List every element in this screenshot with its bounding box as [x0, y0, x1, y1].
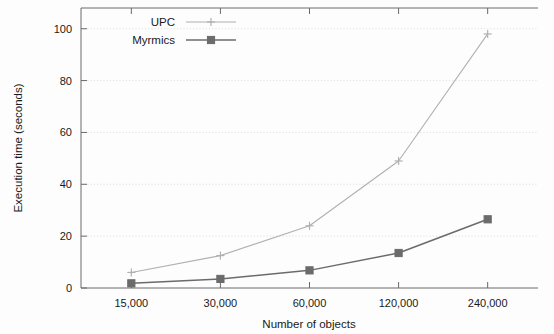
y-tick-label: 0 — [66, 282, 72, 294]
x-tick-label: 120,000 — [379, 297, 419, 309]
data-point-myrmics — [395, 249, 402, 256]
data-point-myrmics — [217, 275, 224, 282]
legend-label-myrmics: Myrmics — [132, 34, 175, 46]
x-tick-label: 60,000 — [293, 297, 327, 309]
y-tick-label: 100 — [54, 23, 72, 35]
data-point-myrmics — [128, 280, 135, 287]
chart-figure: 020406080100 15,00030,00060,000120,00024… — [0, 0, 554, 334]
y-tick-label: 60 — [60, 126, 72, 138]
x-tick-label: 240,000 — [468, 297, 508, 309]
chart-background — [0, 0, 554, 334]
data-point-myrmics — [484, 216, 491, 223]
data-point-myrmics — [306, 267, 313, 274]
x-axis-label: Number of objects — [262, 318, 356, 330]
y-axis-label: Execution time (seconds) — [12, 83, 24, 212]
y-tick-label: 40 — [60, 178, 72, 190]
x-tick-label: 30,000 — [204, 297, 238, 309]
x-tick-label: 15,000 — [115, 297, 149, 309]
legend-marker-myrmics — [207, 36, 214, 43]
y-tick-label: 20 — [60, 230, 72, 242]
execution-time-line-chart: 020406080100 15,00030,00060,000120,00024… — [0, 0, 554, 334]
legend-label-upc: UPC — [151, 16, 175, 28]
y-tick-label: 80 — [60, 75, 72, 87]
